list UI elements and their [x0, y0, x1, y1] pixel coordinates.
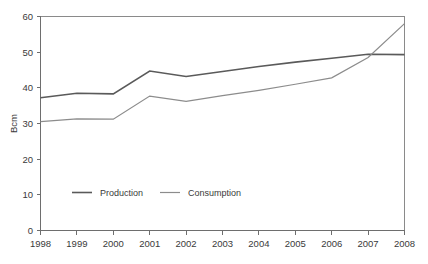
plot-frame: [41, 17, 405, 231]
data-series-group: [41, 24, 405, 122]
y-axis: 60 50 40 30 20 10 0 Bcm: [8, 11, 41, 236]
x-tick-label-1998: 1998: [30, 238, 51, 249]
x-tick-label-2005: 2005: [285, 238, 306, 249]
x-tick-label-2002: 2002: [176, 238, 197, 249]
series-line-production: [41, 54, 405, 98]
x-axis: 1998 1999 2000 2001 2002 2003 2004 2005 …: [30, 231, 415, 250]
chart-container: 60 50 40 30 20 10 0 Bcm: [0, 0, 428, 264]
y-tick-label-40: 40: [22, 82, 33, 93]
x-tick-label-2006: 2006: [321, 238, 342, 249]
y-tick-label-0: 0: [28, 225, 33, 236]
line-chart: 60 50 40 30 20 10 0 Bcm: [0, 0, 428, 264]
x-tick-label-2008: 2008: [394, 238, 415, 249]
x-axis-tick-labels: 1998 1999 2000 2001 2002 2003 2004 2005 …: [30, 238, 415, 249]
y-axis-ticks: [37, 17, 41, 231]
x-tick-label-2007: 2007: [358, 238, 379, 249]
y-axis-tick-labels: 60 50 40 30 20 10 0: [22, 11, 33, 236]
x-axis-ticks: [41, 231, 405, 235]
y-tick-label-50: 50: [22, 47, 33, 58]
legend-label-consumption: Consumption: [188, 188, 241, 198]
y-tick-label-30: 30: [22, 118, 33, 129]
x-tick-label-1999: 1999: [66, 238, 87, 249]
series-line-consumption: [41, 24, 405, 122]
x-tick-label-2003: 2003: [212, 238, 233, 249]
y-tick-label-20: 20: [22, 154, 33, 165]
y-axis-title: Bcm: [8, 114, 19, 133]
legend-label-production: Production: [100, 188, 143, 198]
y-tick-label-10: 10: [22, 189, 33, 200]
x-tick-label-2001: 2001: [139, 238, 160, 249]
x-tick-label-2004: 2004: [248, 238, 269, 249]
y-tick-label-60: 60: [22, 11, 33, 22]
x-tick-label-2000: 2000: [103, 238, 124, 249]
chart-legend: Production Consumption: [72, 188, 241, 198]
